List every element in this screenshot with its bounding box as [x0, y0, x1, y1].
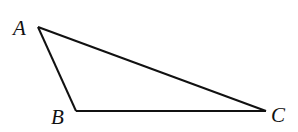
- vertex-label-c: C: [271, 103, 286, 127]
- vertex-label-b: B: [51, 105, 64, 129]
- edge-ca: [38, 27, 266, 111]
- triangle-diagram: A B C: [0, 0, 298, 132]
- triangle-edges: [38, 27, 266, 111]
- vertex-label-a: A: [11, 16, 26, 40]
